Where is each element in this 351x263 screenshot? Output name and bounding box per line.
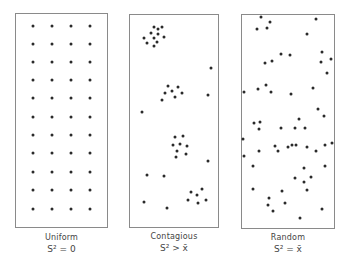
individual-dot [163, 175, 166, 178]
individual-dot [32, 134, 35, 137]
individual-dot [330, 58, 333, 61]
individual-dot [259, 121, 262, 124]
individual-dot [310, 176, 313, 179]
individual-dot [265, 84, 268, 87]
individual-dot [303, 167, 306, 170]
individual-dot [89, 116, 92, 119]
individual-dot [190, 191, 193, 194]
individual-dot [70, 152, 73, 155]
random-formula: S² = x̄ [241, 244, 335, 254]
individual-dot [179, 143, 182, 146]
individual-dot [326, 72, 329, 75]
individual-dot [280, 127, 283, 130]
individual-dot [51, 25, 54, 28]
individual-dot [281, 190, 284, 193]
individual-dot [70, 43, 73, 46]
individual-dot [260, 16, 263, 19]
individual-dot [32, 97, 35, 100]
individual-dot [51, 43, 54, 46]
individual-dot [70, 79, 73, 82]
individual-dot [324, 144, 327, 147]
individual-dot [284, 202, 287, 205]
individual-dot [289, 54, 292, 57]
contagious-label: Contagious [129, 232, 219, 241]
individual-dot [182, 135, 185, 138]
individual-dot [196, 194, 199, 197]
individual-dot [51, 61, 54, 64]
individual-dot [321, 51, 324, 54]
individual-dot [51, 208, 54, 211]
individual-dot [146, 42, 149, 45]
individual-dot [274, 145, 277, 148]
individual-dot [89, 189, 92, 192]
individual-dot [89, 208, 92, 211]
individual-dot [266, 27, 269, 30]
individual-dot [89, 25, 92, 28]
individual-dot [280, 53, 283, 56]
individual-dot [70, 189, 73, 192]
individual-dot [177, 86, 180, 89]
individual-dot [252, 188, 255, 191]
individual-dot [161, 26, 164, 29]
individual-dot [187, 199, 190, 202]
individual-dot [143, 37, 146, 40]
individual-dot [70, 61, 73, 64]
individual-dot [143, 201, 146, 204]
individual-dot [156, 41, 159, 44]
individual-dot [150, 32, 153, 35]
individual-dot [306, 146, 309, 149]
individual-dot [257, 88, 260, 91]
individual-dot [242, 138, 245, 141]
individual-dot [32, 171, 35, 174]
individual-dot [89, 61, 92, 64]
random-panel [241, 14, 335, 229]
individual-dot [32, 61, 35, 64]
individual-dot [210, 67, 213, 70]
individual-dot [176, 150, 179, 153]
individual-dot [153, 45, 156, 48]
individual-dot [298, 118, 301, 121]
individual-dot [175, 156, 178, 159]
individual-dot [304, 127, 307, 130]
individual-dot [51, 152, 54, 155]
individual-dot [287, 146, 290, 149]
individual-dot [303, 181, 306, 184]
individual-dot [186, 145, 189, 148]
individual-dot [306, 189, 309, 192]
individual-dot [264, 62, 267, 65]
individual-dot [32, 116, 35, 119]
individual-dot [267, 204, 270, 207]
individual-dot [295, 144, 298, 147]
individual-dot [331, 142, 334, 145]
individual-dot [166, 207, 169, 210]
individual-dot [89, 43, 92, 46]
individual-dot [270, 91, 273, 94]
individual-dot [163, 36, 166, 39]
individual-dot [70, 116, 73, 119]
individual-dot [70, 25, 73, 28]
contagious-formula: S² > x̄ [129, 243, 219, 253]
individual-dot [256, 28, 259, 31]
individual-dot [290, 93, 293, 96]
individual-dot [51, 79, 54, 82]
individual-dot [32, 189, 35, 192]
individual-dot [294, 127, 297, 130]
individual-dot [253, 122, 256, 125]
individual-dot [321, 208, 324, 211]
individual-dot [271, 60, 274, 63]
individual-dot [70, 208, 73, 211]
individual-dot [312, 87, 315, 90]
individual-dot [32, 25, 35, 28]
individual-dot [153, 26, 156, 29]
individual-dot [320, 61, 323, 64]
individual-dot [51, 134, 54, 137]
individual-dot [32, 79, 35, 82]
individual-dot [185, 153, 188, 156]
individual-dot [294, 177, 297, 180]
uniform-panel [15, 13, 108, 228]
individual-dot [323, 115, 326, 118]
individual-dot [51, 171, 54, 174]
individual-dot [89, 79, 92, 82]
individual-dot [205, 199, 208, 202]
individual-dot [207, 94, 210, 97]
